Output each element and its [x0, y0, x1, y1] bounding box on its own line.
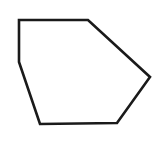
diagram-canvas — [0, 0, 162, 141]
pentagon-shape — [19, 20, 150, 124]
